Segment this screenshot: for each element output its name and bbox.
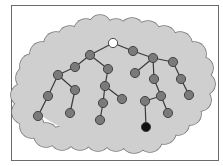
root-node: [108, 38, 117, 47]
tree-node: [156, 91, 165, 100]
tree-node: [53, 70, 62, 79]
cloud-region: [10, 14, 216, 154]
tree-node: [140, 96, 149, 105]
tree-node: [148, 53, 157, 62]
cloud-body: [25, 33, 201, 137]
tree-node: [95, 115, 104, 124]
tree-node: [176, 74, 185, 83]
tree-node: [100, 81, 109, 90]
tree-node: [85, 50, 94, 59]
tree-node: [98, 98, 107, 107]
tree-node: [33, 111, 42, 120]
target-node: [141, 122, 150, 131]
tree-node: [103, 64, 112, 73]
tree-node: [163, 108, 172, 117]
tree-node: [128, 46, 137, 55]
tree-node: [43, 91, 52, 100]
tree-node: [168, 57, 177, 66]
tree-diagram: [0, 0, 223, 166]
tree-node: [149, 74, 158, 83]
tree-node: [65, 108, 74, 117]
tree-node: [70, 85, 79, 94]
tree-node: [70, 62, 79, 71]
tree-node: [184, 90, 193, 99]
tree-node: [130, 68, 139, 77]
tree-node: [117, 94, 126, 103]
